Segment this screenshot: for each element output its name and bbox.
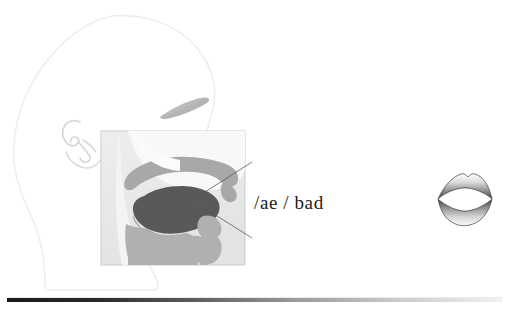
footer-gradient-bar [7,297,502,302]
articulation-diagram-svg [0,0,507,310]
ear-outline [63,121,100,168]
frontal-lip-shape [438,174,492,226]
phoneme-label: /ae / bad [254,192,324,214]
figure-canvas: /ae / bad [0,0,507,310]
vocal-tract-inset [101,131,245,265]
eyebrow-shape [160,98,209,120]
